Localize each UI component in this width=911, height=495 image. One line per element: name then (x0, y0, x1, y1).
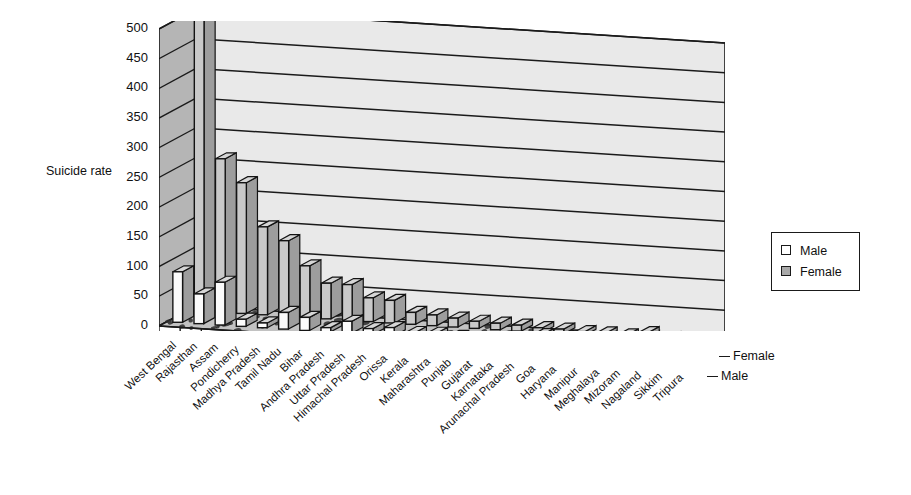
legend-swatch-female (781, 266, 791, 276)
depth-axis-label-male: Male (721, 369, 748, 383)
suicide-rate-3d-bar-chart: Suicide rate 050100150200250300350400450… (0, 0, 911, 495)
chart-legend: Male Female (771, 232, 860, 291)
legend-label-female: Female (800, 264, 842, 280)
legend-swatch-male (781, 245, 791, 255)
depth-axis-tick-female (719, 356, 730, 357)
depth-axis-tick-male (707, 376, 718, 377)
legend-label-male: Male (800, 243, 827, 259)
depth-axis-label-female: Female (733, 349, 775, 363)
